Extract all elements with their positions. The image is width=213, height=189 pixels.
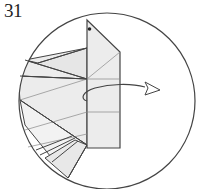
origami-diagram [0,0,213,189]
paper-model [18,20,120,178]
flap-marker-dot [88,27,92,31]
main-flap [87,20,120,148]
arrow-head-icon [145,82,160,95]
